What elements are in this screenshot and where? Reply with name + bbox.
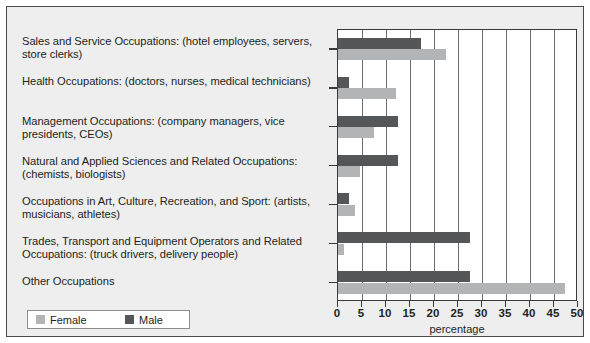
gridline-25 <box>458 30 459 300</box>
x-tick-label-40: 40 <box>523 307 536 319</box>
x-tick-label-5: 5 <box>358 307 364 319</box>
x-tick-label-15: 15 <box>403 307 416 319</box>
gridline-40 <box>530 30 531 300</box>
bar-female-4 <box>338 205 355 216</box>
gridline-15 <box>410 30 411 300</box>
category-label-sciences: Natural and Applied Sciences and Related… <box>22 155 320 181</box>
legend-swatch-female-icon <box>36 315 45 324</box>
x-axis-labels: 05101520253035404550 <box>337 307 577 322</box>
category-tick-6 <box>329 282 338 283</box>
x-tick-label-35: 35 <box>499 307 512 319</box>
legend: Female Male <box>27 310 190 329</box>
x-tick-label-45: 45 <box>547 307 560 319</box>
category-tick-4 <box>329 204 338 205</box>
x-tick-label-50: 50 <box>571 307 584 319</box>
x-tick-label-30: 30 <box>475 307 488 319</box>
bar-female-2 <box>338 127 374 138</box>
bar-female-3 <box>338 166 360 177</box>
bar-male-4 <box>338 193 349 204</box>
category-label-management: Management Occupations: (company manager… <box>22 115 320 141</box>
bar-male-0 <box>338 38 421 49</box>
x-tick-label-0: 0 <box>334 307 340 319</box>
category-tick-5 <box>329 243 338 244</box>
bar-male-6 <box>338 271 470 282</box>
plot-area <box>337 29 577 301</box>
category-tick-1 <box>329 87 338 88</box>
gridline-20 <box>434 30 435 300</box>
category-tick-3 <box>329 165 338 166</box>
bar-male-5 <box>338 232 470 243</box>
legend-label-female: Female <box>50 314 87 326</box>
category-label-sales: Sales and Service Occupations: (hotel em… <box>22 35 320 61</box>
gridline-35 <box>506 30 507 300</box>
legend-entry-male: Male <box>125 311 163 328</box>
legend-label-male: Male <box>139 314 163 326</box>
category-label-health: Health Occupations: (doctors, nurses, me… <box>22 75 320 88</box>
bar-female-6 <box>338 283 565 294</box>
x-tick-label-10: 10 <box>379 307 392 319</box>
legend-swatch-male-icon <box>125 315 134 324</box>
x-tick-label-20: 20 <box>427 307 440 319</box>
gridline-30 <box>482 30 483 300</box>
category-tick-2 <box>329 126 338 127</box>
x-axis-title: percentage <box>337 323 577 335</box>
category-label-trades: Trades, Transport and Equipment Operator… <box>22 235 320 261</box>
category-label-art: Occupations in Art, Culture, Recreation,… <box>22 195 320 221</box>
chart-figure: Sales and Service Occupations: (hotel em… <box>6 6 584 337</box>
legend-entry-female: Female <box>36 311 87 328</box>
bar-male-2 <box>338 116 398 127</box>
bar-male-3 <box>338 155 398 166</box>
x-tick-label-25: 25 <box>451 307 464 319</box>
bar-female-5 <box>338 244 344 255</box>
bar-male-1 <box>338 77 349 88</box>
category-label-column: Sales and Service Occupations: (hotel em… <box>7 7 325 336</box>
bar-female-1 <box>338 88 396 99</box>
bar-female-0 <box>338 49 446 60</box>
gridline-45 <box>554 30 555 300</box>
category-tick-0 <box>329 48 338 49</box>
category-label-other: Other Occupations <box>22 275 320 288</box>
